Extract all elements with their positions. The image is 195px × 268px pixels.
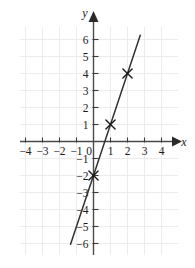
y-tick-label: 1	[83, 119, 89, 131]
y-tick-label: 6	[83, 34, 89, 46]
x-tick-label: 1	[108, 145, 114, 157]
x-tick-label: 3	[142, 145, 148, 157]
y-tick-label: 2	[83, 102, 89, 114]
x-tick-label: −2	[53, 145, 65, 157]
y-tick-label: −6	[76, 238, 88, 250]
y-axis-label: y	[81, 6, 88, 20]
x-tick-label: −4	[19, 145, 31, 157]
coordinate-graph: −4−3−2−101234654321−1−2−3−4−5−6 x y	[0, 0, 195, 268]
graph-background	[0, 0, 195, 268]
graph-canvas: −4−3−2−101234654321−1−2−3−4−5−6 x y	[0, 0, 195, 268]
x-axis-label: x	[180, 135, 187, 149]
x-tick-label: 2	[125, 145, 131, 157]
y-tick-label: −1	[76, 153, 88, 165]
y-tick-label: 4	[83, 68, 89, 80]
y-tick-label: −2	[76, 170, 88, 182]
x-tick-label: 4	[159, 145, 165, 157]
x-tick-label: −3	[36, 145, 48, 157]
y-tick-label: 5	[83, 51, 89, 63]
y-tick-label: 3	[83, 85, 89, 97]
